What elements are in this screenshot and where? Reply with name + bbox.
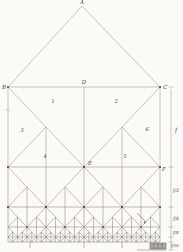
main-diagonal <box>18 237 23 242</box>
main-diagonal <box>136 237 141 242</box>
main-diagonal <box>75 237 80 242</box>
node-label-D: D <box>81 79 87 85</box>
secondary-diagonal <box>103 232 108 237</box>
secondary-diagonal <box>122 232 127 237</box>
node-label-C: C <box>163 84 168 90</box>
main-diagonal <box>70 237 75 242</box>
secondary-diagonal <box>84 187 103 207</box>
dim-label-f: f <box>174 127 178 134</box>
secondary-diagonal <box>84 217 94 227</box>
secondary-diagonal <box>155 232 160 237</box>
main-diagonal <box>51 237 56 242</box>
node-dot <box>159 166 161 168</box>
main-diagonal <box>98 237 103 242</box>
main-diagonal <box>13 237 18 242</box>
secondary-diagonal <box>8 232 13 237</box>
truss-diagram: ABCDEF123645ff/2f/4f/8f/16 <box>0 0 183 252</box>
panel-label-5: 5 <box>123 153 126 159</box>
figure-container: ABCDEF123645ff/2f/4f/8f/16 <box>0 0 183 252</box>
node-dot <box>159 86 161 88</box>
main-diagonal <box>41 237 46 242</box>
secondary-diagonal <box>141 187 160 207</box>
secondary-diagonal <box>65 232 70 237</box>
main-diagonal <box>103 237 108 242</box>
secondary-diagonal <box>8 217 18 227</box>
panel-label-4: 4 <box>42 153 46 159</box>
node-dot <box>121 206 123 208</box>
secondary-diagonal <box>141 232 146 237</box>
main-diagonal <box>37 237 42 242</box>
secondary-diagonal <box>46 217 56 227</box>
dim-label-f8: f/8 <box>172 230 179 235</box>
main-diagonal <box>79 237 84 242</box>
dim-label-f16: f/16 <box>170 243 179 248</box>
main-diagonal <box>89 237 94 242</box>
node-dot <box>7 166 9 168</box>
node-dot <box>7 86 9 88</box>
secondary-diagonal <box>60 232 65 237</box>
main-diagonal <box>108 237 113 242</box>
node-dot <box>83 206 85 208</box>
main-diagonal <box>56 237 61 242</box>
main-diagonal <box>8 237 13 242</box>
panel-label-3: 3 <box>20 127 23 133</box>
main-diagonal <box>127 237 132 242</box>
secondary-diagonal <box>8 127 46 167</box>
main-diagonal <box>94 237 99 242</box>
dim-label-f4: f/4 <box>172 216 179 221</box>
main-diagonal <box>46 237 51 242</box>
roof-rafter-right <box>82 6 160 87</box>
main-diagonal <box>151 237 156 242</box>
secondary-diagonal <box>122 127 160 167</box>
main-diagonal <box>32 237 37 242</box>
main-diagonal <box>65 237 70 242</box>
main-diagonal <box>27 237 32 242</box>
dim-label-f2: f/2 <box>172 188 179 193</box>
secondary-diagonal <box>113 217 123 227</box>
secondary-diagonal <box>151 217 161 227</box>
node-label-E: E <box>87 160 92 166</box>
main-diagonal <box>146 237 151 242</box>
secondary-diagonal <box>122 217 132 227</box>
node-dot <box>83 166 85 168</box>
secondary-diagonal <box>22 232 27 237</box>
secondary-diagonal <box>37 217 47 227</box>
secondary-diagonal <box>117 232 122 237</box>
secondary-diagonal <box>41 232 46 237</box>
panel-label-2: 2 <box>113 98 117 104</box>
panel-label-6: 6 <box>145 126 149 132</box>
node-dot <box>159 206 161 208</box>
main-diagonal <box>122 237 127 242</box>
node-label-F: F <box>161 166 166 172</box>
secondary-diagonal <box>75 217 85 227</box>
main-diagonal <box>60 237 65 242</box>
node-label-A: A <box>79 0 84 5</box>
main-diagonal <box>113 237 118 242</box>
node-dot <box>45 206 47 208</box>
secondary-diagonal <box>46 232 51 237</box>
main-diagonal <box>22 237 27 242</box>
secondary-diagonal <box>136 232 141 237</box>
main-diagonal <box>132 237 137 242</box>
secondary-diagonal <box>65 187 84 207</box>
secondary-diagonal <box>8 187 27 207</box>
secondary-diagonal <box>27 232 32 237</box>
main-diagonal <box>141 237 146 242</box>
main-diagonal <box>117 237 122 242</box>
node-label-B: B <box>1 84 6 90</box>
panel-label-1: 1 <box>51 98 54 104</box>
main-diagonal <box>155 237 160 242</box>
secondary-diagonal <box>79 232 84 237</box>
node-dot <box>7 206 9 208</box>
main-diagonal <box>84 237 89 242</box>
secondary-diagonal <box>84 232 89 237</box>
detail-arrow <box>137 213 146 222</box>
secondary-diagonal <box>98 232 103 237</box>
roof-rafter-left <box>8 6 82 87</box>
